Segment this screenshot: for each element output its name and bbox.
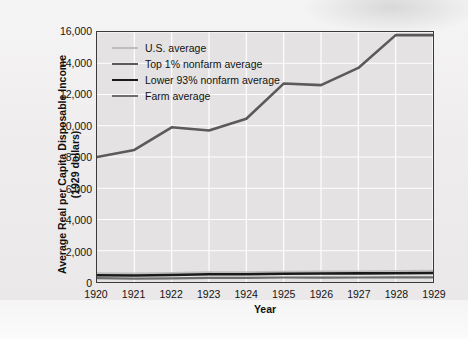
- y-axis-tick-label: 0: [30, 278, 92, 288]
- legend-label: U.S. average: [145, 42, 206, 54]
- y-axis-tick-label: 14,000: [30, 58, 92, 68]
- series-line: [97, 277, 433, 278]
- x-axis-tick-label: 1928: [376, 288, 416, 300]
- legend-swatch-icon: [112, 79, 138, 81]
- x-axis-tick-label: 1927: [339, 288, 379, 300]
- legend-swatch-icon: [112, 95, 138, 97]
- x-axis-tick-label: 1921: [114, 288, 154, 300]
- y-axis-tick-label: 6,000: [30, 184, 92, 194]
- chart-legend: U.S. averageTop 1% nonfarm averageLower …: [112, 40, 280, 104]
- x-axis-tick-label: 1929: [414, 288, 454, 300]
- scan-artifact-top: [300, 0, 468, 34]
- y-axis-tick-label: 12,000: [30, 89, 92, 99]
- y-axis-tick-label: 4,000: [30, 215, 92, 225]
- chart-figure: Average Real per Capita Disposable Incom…: [0, 0, 468, 339]
- x-axis-tick-label: 1920: [76, 288, 116, 300]
- x-axis-tick-label: 1926: [301, 288, 341, 300]
- x-axis-tick-label: 1925: [264, 288, 304, 300]
- x-axis-tick-label: 1924: [226, 288, 266, 300]
- y-axis-tick-label: 16,000: [30, 26, 92, 36]
- y-axis-tick-label: 8,000: [30, 152, 92, 162]
- x-axis-title: Year: [96, 303, 434, 315]
- x-axis-tick-label: 1922: [151, 288, 191, 300]
- x-axis-tick-labels: 1920192119221923192419251926192719281929: [96, 288, 434, 302]
- legend-label: Top 1% nonfarm average: [145, 58, 262, 70]
- legend-label: Farm average: [145, 90, 210, 102]
- legend-item: Farm average: [112, 88, 280, 103]
- legend-swatch-icon: [112, 47, 138, 49]
- y-axis-tick-labels: 02,0004,0006,0008,00010,00012,00014,0001…: [24, 31, 92, 283]
- legend-item: Lower 93% nonfarm average: [112, 72, 280, 87]
- x-axis-tick-label: 1923: [189, 288, 229, 300]
- legend-item: Top 1% nonfarm average: [112, 56, 280, 71]
- y-axis-tick-label: 10,000: [30, 121, 92, 131]
- y-axis-tick-label: 2,000: [30, 247, 92, 257]
- legend-swatch-icon: [112, 63, 138, 65]
- legend-item: U.S. average: [112, 40, 280, 55]
- legend-label: Lower 93% nonfarm average: [145, 74, 280, 86]
